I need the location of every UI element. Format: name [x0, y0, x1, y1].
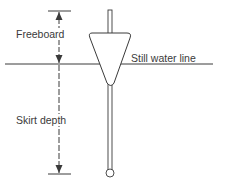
- freeboard-label: Freeboard: [16, 28, 64, 40]
- float-body: [89, 33, 130, 86]
- arrow-down-icon: [56, 165, 63, 173]
- still-water-line-label: Still water line: [131, 52, 196, 64]
- arrow-up-icon: [56, 12, 63, 20]
- skirt-depth-label: Skirt depth: [16, 114, 66, 126]
- ballast-weight: [106, 169, 114, 177]
- arrow-down-icon: [56, 55, 63, 63]
